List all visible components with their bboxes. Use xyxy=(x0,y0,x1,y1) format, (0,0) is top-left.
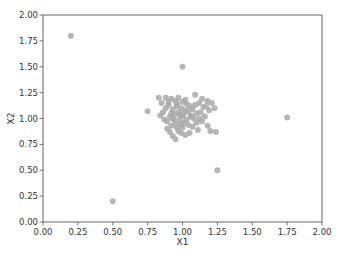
data-point xyxy=(173,136,179,142)
data-point xyxy=(182,97,188,103)
data-point xyxy=(188,113,194,119)
y-tick-label: 0.75 xyxy=(19,139,38,149)
data-point xyxy=(212,105,218,111)
x-tick-label: 0.75 xyxy=(138,227,157,237)
scatter-chart: 0.000.250.500.751.001.251.501.752.00 0.0… xyxy=(0,0,342,257)
data-point xyxy=(205,123,211,129)
data-point xyxy=(192,92,198,98)
x-tick-label: 0.25 xyxy=(68,227,87,237)
data-point xyxy=(166,99,172,105)
data-point xyxy=(192,102,198,108)
x-tick-label: 1.50 xyxy=(243,227,262,237)
x-axis-ticks: 0.000.250.500.751.001.251.501.752.00 xyxy=(34,222,332,237)
x-tick-label: 1.75 xyxy=(278,227,297,237)
data-point xyxy=(207,128,213,134)
x-tick-label: 1.25 xyxy=(208,227,227,237)
scatter-points xyxy=(68,33,290,205)
data-point xyxy=(214,167,220,173)
data-point xyxy=(156,95,162,101)
data-point xyxy=(209,100,215,106)
data-point xyxy=(199,119,205,125)
data-point xyxy=(195,127,201,133)
data-point xyxy=(168,110,174,116)
x-axis-label: X1 xyxy=(177,237,189,247)
y-tick-label: 0.00 xyxy=(19,217,38,227)
data-point xyxy=(180,64,186,70)
data-point xyxy=(174,101,180,107)
y-tick-label: 1.75 xyxy=(19,36,38,46)
x-tick-label: 0.50 xyxy=(103,227,122,237)
y-axis-ticks: 0.000.250.500.751.001.251.501.752.00 xyxy=(19,10,43,227)
data-point xyxy=(110,198,116,204)
data-point xyxy=(68,33,74,39)
data-point xyxy=(284,114,290,120)
data-point xyxy=(178,130,184,136)
x-tick-label: 2.00 xyxy=(313,227,332,237)
y-tick-label: 1.50 xyxy=(19,62,38,72)
data-point xyxy=(163,105,169,111)
data-point xyxy=(199,96,205,102)
data-point xyxy=(145,108,151,114)
data-point xyxy=(170,116,176,122)
y-tick-label: 0.25 xyxy=(19,191,38,201)
y-tick-label: 2.00 xyxy=(19,10,38,20)
x-tick-label: 0.00 xyxy=(34,227,53,237)
data-point xyxy=(159,100,165,106)
data-point xyxy=(213,129,219,135)
y-axis-label: X2 xyxy=(6,113,16,125)
y-tick-label: 0.50 xyxy=(19,165,38,175)
data-point xyxy=(178,122,184,128)
y-tick-label: 1.25 xyxy=(19,88,38,98)
data-point xyxy=(198,109,204,115)
y-tick-label: 1.00 xyxy=(19,114,38,124)
x-tick-label: 1.00 xyxy=(173,227,192,237)
data-point xyxy=(203,103,209,109)
